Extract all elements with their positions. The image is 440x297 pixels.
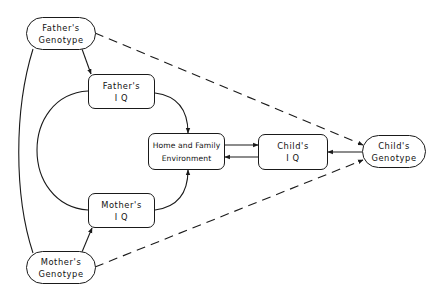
father-genotype-line2: Genotype [38, 34, 83, 46]
home-family-environment-node: Home and Family Environment [148, 133, 225, 170]
father-genotype-to-iq-arrow [82, 49, 91, 74]
mother-iq-to-home-arrow [155, 170, 188, 210]
child-genotype-line1: Child's [378, 140, 410, 152]
father-genotype-node: Father's Genotype [26, 17, 96, 50]
father-genotype-line1: Father's [42, 22, 80, 34]
father-iq-line1: Father's [103, 80, 141, 92]
mother-genotype-line2: Genotype [38, 268, 83, 280]
mother-genotype-line1: Mother's [41, 256, 82, 268]
father-mother-genotype-curve [19, 49, 33, 253]
mother-genotype-to-iq-arrow [82, 228, 92, 252]
child-iq-line2: I Q [286, 152, 299, 164]
father-mother-iq-curve [37, 91, 88, 210]
home-env-line1: Home and Family [153, 139, 220, 152]
father-iq-node: Father's I Q [88, 74, 155, 109]
father-iq-line2: I Q [115, 92, 128, 104]
child-genotype-node: Child's Genotype [362, 135, 426, 168]
child-iq-line1: Child's [277, 140, 309, 152]
mother-iq-line1: Mother's [101, 199, 142, 211]
mother-iq-line2: I Q [115, 211, 128, 223]
father-iq-to-home-arrow [155, 93, 188, 133]
child-genotype-line2: Genotype [371, 152, 416, 164]
mother-genotype-node: Mother's Genotype [26, 251, 96, 284]
genotype-iq-path-diagram: Father's Genotype Father's I Q Home and … [0, 0, 440, 297]
mother-iq-node: Mother's I Q [88, 193, 155, 228]
home-env-line2: Environment [162, 152, 212, 165]
child-iq-node: Child's I Q [258, 134, 328, 170]
